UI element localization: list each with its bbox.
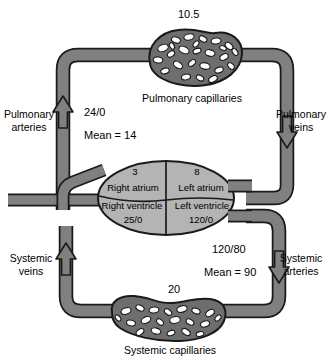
circulatory-pressure-diagram: 10.5 Pulmonary capillaries Pulmonary art… [0, 0, 330, 359]
right-atrium-label: Right atrium [100, 182, 166, 193]
systemic-artery-mean: Mean = 90 [204, 266, 256, 278]
systemic-capillary-bed [112, 296, 226, 341]
left-ventricle-pressure: 120/0 [172, 214, 230, 225]
pulmonary-artery-pressure: 24/0 [84, 106, 105, 118]
pulmonary-capillary-pressure: 10.5 [178, 8, 199, 20]
pulmonary-capillary-bed [149, 29, 242, 86]
right-ventricle-pressure: 25/0 [104, 214, 162, 225]
systemic-arteries-label: Systemic arteries [272, 252, 330, 277]
systemic-veins-label: Systemic veins [4, 252, 58, 277]
systemic-capillary-pressure: 20 [168, 283, 180, 295]
right-ventricle-label: Right ventricle [98, 200, 166, 211]
left-atrium-label: Left atrium [168, 182, 234, 193]
pulmonary-capillaries-label: Pulmonary capillaries [107, 92, 277, 105]
pulmonary-veins-label: Pulmonary veins [272, 108, 330, 133]
circulation-vessel-graphic [0, 0, 330, 359]
systemic-capillaries-label: Systemic capillaries [85, 344, 255, 357]
systemic-artery-pressure: 120/80 [212, 243, 246, 255]
left-atrium-pressure: 8 [168, 166, 226, 177]
pulmonary-artery-mean: Mean = 14 [84, 129, 136, 141]
left-ventricle-label: Left ventricle [168, 200, 236, 211]
pulmonary-arteries-label: Pulmonary arteries [0, 108, 58, 133]
right-atrium-pressure: 3 [106, 166, 164, 177]
systemic-vein-vessel [56, 226, 118, 311]
